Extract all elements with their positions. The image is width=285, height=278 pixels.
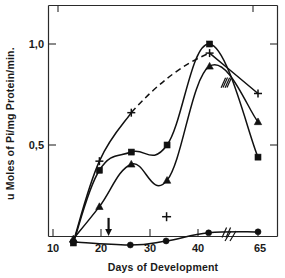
circle-series-marker-1 bbox=[127, 242, 133, 248]
right-axis-ticks bbox=[270, 44, 278, 145]
circle-series-marker-0 bbox=[70, 239, 76, 245]
x-tick-label-4: 65 bbox=[254, 242, 266, 254]
square-series-marker-3 bbox=[164, 142, 170, 148]
square-series-marker-2 bbox=[128, 149, 134, 155]
square-series-marker-1 bbox=[96, 167, 102, 173]
chart-figure: 1,0 0,5 u Moles of Pi/mg Protein/min. 10… bbox=[0, 0, 285, 278]
x-axis-title: Days of Development bbox=[108, 261, 219, 273]
down-arrow-marker bbox=[105, 218, 112, 236]
series-triangle-series bbox=[70, 62, 262, 241]
plus-series-marker-1 bbox=[95, 157, 103, 165]
y-tick-label-0: 0,5 bbox=[29, 139, 44, 151]
x-tick-label-3: 40 bbox=[192, 242, 204, 254]
circle-series-marker-4 bbox=[255, 229, 261, 235]
isolated-plus-point bbox=[162, 212, 171, 221]
y-axis-ticks bbox=[49, 44, 57, 145]
circle-series-marker-2 bbox=[163, 238, 169, 244]
triangle-series-line bbox=[73, 65, 258, 239]
square-series-marker-5 bbox=[255, 154, 261, 160]
circle-series-marker-3 bbox=[206, 230, 212, 236]
square-series-marker-4 bbox=[207, 41, 213, 47]
plus-series-line-solid-left bbox=[73, 113, 131, 242]
plus-series-line-dashed bbox=[131, 53, 209, 113]
data-layer bbox=[69, 41, 262, 248]
plus-series-line-solid-right bbox=[210, 53, 258, 93]
plot-frame bbox=[49, 6, 278, 237]
y-tick-label-1: 1,0 bbox=[29, 38, 44, 50]
top-axis-ticks bbox=[58, 6, 253, 13]
x-tick-label-0: 10 bbox=[47, 242, 59, 254]
y-axis-title: u Moles of Pi/mg Protein/min. bbox=[4, 47, 16, 200]
chart-svg: 1,0 0,5 u Moles of Pi/mg Protein/min. 10… bbox=[0, 0, 285, 278]
